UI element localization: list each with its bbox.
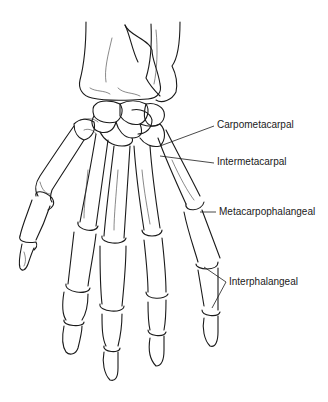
label-leader-lines <box>160 126 226 308</box>
label-interphalangeal: Interphalangeal <box>229 276 298 288</box>
forearm-bones <box>80 22 181 102</box>
intermetacarpal-leader <box>160 156 214 163</box>
interphalangeal-leader <box>204 267 226 308</box>
hand-skeleton-diagram: Carpometacarpal Intermetacarpal Metacarp… <box>0 0 328 402</box>
thumb-bones <box>19 126 84 270</box>
index-finger-bones <box>63 134 108 354</box>
ring-finger-bones <box>134 146 168 366</box>
label-metacarpophalangeal: Metacarpophalangeal <box>219 206 315 218</box>
hand-bones-drawing <box>0 0 328 402</box>
label-carpometacarpal: Carpometacarpal <box>217 119 294 131</box>
carpometacarpal-leader <box>160 126 214 146</box>
carpal-bones <box>74 101 165 147</box>
label-intermetacarpal: Intermetacarpal <box>217 156 286 168</box>
middle-finger-bones <box>100 146 130 380</box>
